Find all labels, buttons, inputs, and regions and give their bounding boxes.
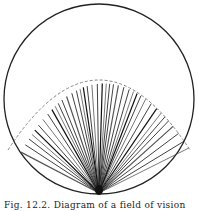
dashed-arc bbox=[8, 80, 190, 150]
figure-caption: Fig. 12.2. Diagram of a field of vision bbox=[4, 200, 199, 211]
ray-line bbox=[99, 117, 165, 193]
origin-point bbox=[95, 185, 103, 195]
outer-circle bbox=[4, 4, 194, 194]
ray-fan bbox=[21, 84, 189, 193]
field-diagram bbox=[0, 0, 199, 198]
